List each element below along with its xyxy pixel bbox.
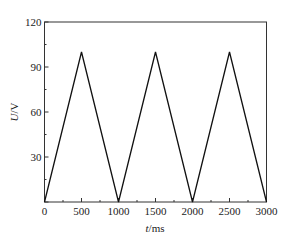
x-tick-label: 0 [42,205,48,217]
plot-border [45,22,267,202]
series-line [45,52,267,202]
y-axis-label: U/V [8,102,20,121]
x-axis-label: t/ms [146,222,165,234]
y-tick-label: 30 [31,151,43,163]
x-tick-label: 2000 [182,205,205,217]
x-tick-label: 2500 [219,205,242,217]
triangle-wave-chart: 050010001500200025003000 306090120 t/ms … [0,0,288,239]
data-series [45,52,267,202]
plot-frame [45,22,267,202]
y-tick-label: 90 [31,61,43,73]
x-tick-label: 1500 [145,205,168,217]
x-tick-label: 1000 [108,205,131,217]
x-tick-label: 3000 [256,205,279,217]
x-tick-label: 500 [73,205,90,217]
x-axis-ticks: 050010001500200025003000 [42,198,278,217]
y-tick-label: 120 [25,16,42,28]
y-tick-label: 60 [31,106,43,118]
